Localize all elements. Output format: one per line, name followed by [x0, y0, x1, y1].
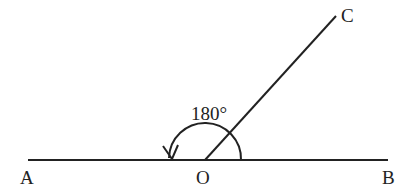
- angle-arc: [169, 123, 241, 160]
- angle-label: 180°: [191, 103, 227, 124]
- point-label-b: B: [382, 167, 395, 188]
- point-label-o: O: [196, 167, 210, 188]
- point-label-a: A: [20, 167, 34, 188]
- ray-oc: [205, 16, 336, 160]
- point-label-c: C: [341, 5, 354, 26]
- angle-diagram: A O B C 180°: [0, 0, 409, 193]
